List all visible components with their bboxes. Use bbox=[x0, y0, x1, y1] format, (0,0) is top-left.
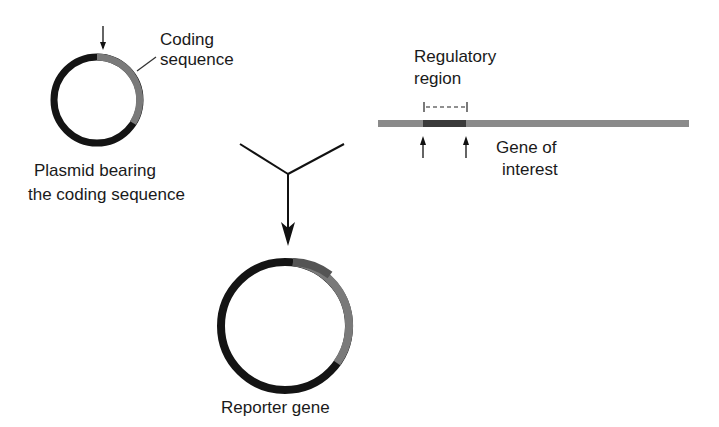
plasmid-label-2: the coding sequence bbox=[28, 185, 185, 205]
coding-sequence-label-2: sequence bbox=[160, 50, 234, 70]
coding-sequence-leader-line bbox=[137, 57, 156, 71]
plasmid-label-1: Plasmid bearing bbox=[34, 161, 156, 181]
coding-sequence-label-1: Coding bbox=[160, 30, 214, 50]
diagram-canvas bbox=[0, 0, 719, 427]
coding-sequence-arc bbox=[97, 57, 140, 123]
regulatory-region-arc bbox=[293, 262, 330, 275]
gene-of-interest-label-1: Gene of bbox=[496, 138, 557, 158]
merge-arrow bbox=[240, 144, 344, 246]
reporter-gene-label: Reporter gene bbox=[221, 398, 330, 418]
gene-of-interest-label-2: interest bbox=[502, 160, 558, 180]
regulatory-region-label-2: region bbox=[414, 69, 461, 89]
plasmid-small bbox=[54, 26, 156, 143]
regulatory-region-segment bbox=[423, 120, 466, 127]
reporter-plasmid bbox=[221, 262, 349, 390]
regulatory-region-label-1: Regulatory bbox=[414, 47, 496, 67]
coding-sequence-arc bbox=[293, 262, 349, 363]
